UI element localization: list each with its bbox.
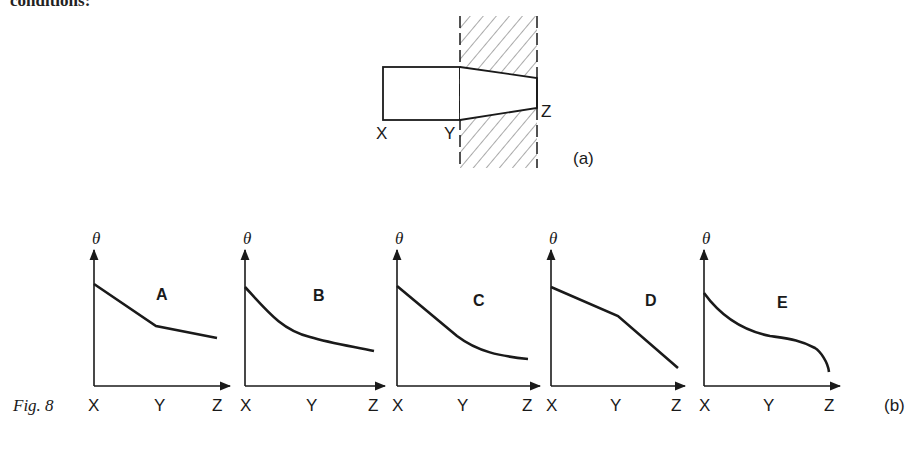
x-tick-z: Z [368,396,378,415]
theta-axis-label: θ [395,229,403,248]
part-a-diagram: X Y Z (a) [376,16,594,168]
curve-e [704,293,829,372]
graph-b: θ B X Y Z [240,229,385,415]
theta-axis-label: θ [243,229,251,248]
x-tick-z: Z [522,396,532,415]
x-tick-x: X [699,396,710,415]
theta-axis-label: θ [92,229,100,248]
graph-label-e: E [777,294,788,311]
graph-label-b: B [313,287,325,304]
theta-axis-label: θ [702,229,710,248]
x-tick-z: Z [212,396,222,415]
figure-canvas: X Y Z (a) Fig. 8 θ A X Y Z θ B X Y Z θ C… [0,0,921,450]
graph-c: θ C X Y Z [392,229,540,415]
graph-label-c: C [473,292,485,309]
x-tick-y: Y [306,396,317,415]
graph-e: θ E X Y Z [699,229,840,415]
point-y-label: Y [444,124,455,143]
curve-b [245,287,374,351]
point-x-label: X [376,124,387,143]
x-tick-x: X [240,396,251,415]
curve-c [397,286,528,359]
x-tick-z: Z [671,396,681,415]
x-tick-x: X [546,396,557,415]
rod-section-xy [383,67,460,120]
x-tick-y: Y [457,396,468,415]
part-b-label: (b) [884,396,905,415]
figure-caption: Fig. 8 [12,396,54,415]
graph-label-d: D [645,292,657,309]
graph-label-a: A [156,286,168,303]
x-tick-y: Y [154,396,165,415]
x-tick-z: Z [824,396,834,415]
x-tick-x: X [392,396,403,415]
x-tick-y: Y [610,396,621,415]
graph-d: θ D X Y Z [546,229,685,415]
x-tick-x: X [88,396,99,415]
part-a-label: (a) [573,149,594,168]
x-tick-y: Y [763,396,774,415]
point-z-label: Z [541,102,551,121]
theta-axis-label: θ [549,229,557,248]
graph-a: θ A X Y Z [88,229,230,415]
curve-d [551,287,678,368]
